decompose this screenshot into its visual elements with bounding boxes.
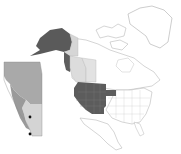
north-america-map [0,0,181,154]
florida-outline [134,122,144,136]
mexico-outline [80,118,122,150]
western-us-region [74,82,106,114]
alberta-inset-north [4,62,42,104]
inset-point-1 [29,116,32,119]
nebraska-region [106,90,116,96]
greenland-outline [128,6,172,48]
inset-point-2 [29,133,32,136]
alberta-inset [4,62,42,136]
map-canvas [0,0,181,154]
